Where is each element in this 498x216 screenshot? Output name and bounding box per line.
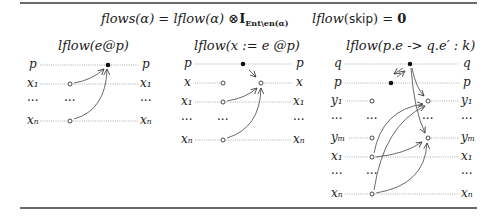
panel-3-left-label-x1: x₁ bbox=[331, 150, 343, 162]
panel-1-right-label-p: p bbox=[142, 58, 150, 70]
panel-2-left-label-dots: ··· bbox=[181, 114, 192, 126]
panel-3-mid-dots-2: ··· bbox=[422, 113, 433, 125]
panel-3-left-label-p: p bbox=[334, 76, 342, 88]
panel-3-mid-dots-3: ··· bbox=[366, 168, 377, 180]
panel-2-left-label-x: x bbox=[184, 76, 191, 88]
flow-diagrams bbox=[0, 0, 498, 216]
panel-2-right-label-p: p bbox=[296, 57, 304, 69]
panel-1-right-label-dots: ··· bbox=[140, 95, 151, 107]
panel-1-left-label-xn: xₙ bbox=[27, 114, 39, 126]
panel-1-mid-dots: ··· bbox=[64, 95, 75, 107]
panel-3-right-label-x1: x₁ bbox=[461, 150, 473, 162]
panel-2-left-label-x1: x₁ bbox=[181, 95, 193, 107]
panel-2-right-label-x1: x₁ bbox=[293, 95, 305, 107]
panel-3-left-label-dots-y: ··· bbox=[331, 113, 342, 125]
panel-3-right-label-xn: xₙ bbox=[461, 187, 473, 199]
dotted-guidelines bbox=[40, 64, 459, 194]
panel-2-right-label-dots: ··· bbox=[293, 114, 304, 126]
panel-3-right-label-dots-y: ··· bbox=[461, 113, 472, 125]
panel-3-right-label-ym: yₘ bbox=[461, 131, 475, 143]
panel-2-right-label-xn: xₙ bbox=[293, 133, 305, 145]
panel-3-left-label-q: q bbox=[334, 57, 342, 69]
panel-1-left-label-dots: ··· bbox=[27, 95, 38, 107]
panel-3-right-label-q: q bbox=[463, 57, 471, 69]
panel-3-left-label-dots-x: ··· bbox=[331, 168, 342, 180]
panel-2-mid-dots: ··· bbox=[217, 114, 228, 126]
panel-1-left-label-x1: x₁ bbox=[27, 77, 39, 89]
panel-1-right-label-xn: xₙ bbox=[140, 114, 152, 126]
panel-3-left-label-y1: y₁ bbox=[331, 94, 343, 106]
panel-1-left-label-p: p bbox=[29, 58, 37, 70]
panel-2-right-label-x: x bbox=[296, 76, 303, 88]
panel-3-right-label-dots-x: ··· bbox=[461, 168, 472, 180]
panel-3-mid-dots-1: ··· bbox=[366, 113, 377, 125]
panel-1-right-label-x1: x₁ bbox=[140, 77, 152, 89]
panel-2-left-label-p: p bbox=[184, 57, 192, 69]
panel-3-left-label-xn: xₙ bbox=[331, 187, 343, 199]
panel-3-left-label-ym: yₘ bbox=[331, 131, 345, 143]
panel-2-left-label-xn: xₙ bbox=[181, 133, 193, 145]
panel-3-right-label-y1: y₁ bbox=[461, 94, 473, 106]
panel-3-right-label-p: p bbox=[463, 76, 471, 88]
